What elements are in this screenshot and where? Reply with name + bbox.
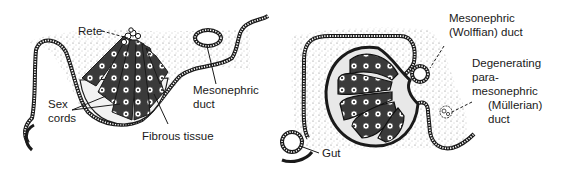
mullerian-duct-remnant: [440, 106, 452, 118]
label-mesonephric-duct: Mesonephric duct: [193, 83, 259, 111]
label-gut: Gut: [322, 146, 341, 160]
label-mullerian-duct: Degenerating para- mesonephric (Mülleria…: [472, 56, 542, 126]
label-sex-cords: Sex cords: [48, 97, 76, 125]
epithelium-curl: [26, 125, 34, 150]
label-wolffian-duct: Mesonephric (Wolffian) duct: [449, 11, 523, 39]
right-testis-drawing: [282, 28, 474, 162]
label-rete: Rete: [78, 24, 102, 38]
label-fibrous-tissue: Fibrous tissue: [142, 129, 214, 143]
